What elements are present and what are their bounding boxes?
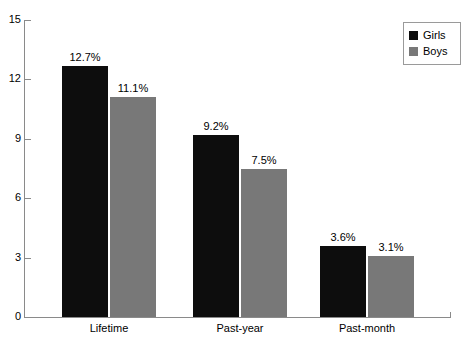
bar-boys-lifetime[interactable]: 11.1% [110,97,156,317]
x-axis-line [24,317,450,318]
y-tick-label: 15 [0,14,21,25]
legend-swatch-boys-icon [409,47,418,56]
bar-boys-past-month[interactable]: 3.1% [368,256,414,317]
y-tick-mark [25,317,31,318]
x-axis-label-past-year: Past-year [173,322,307,335]
legend-label-girls: Girls [423,29,446,41]
bar-value-label: 7.5% [251,154,276,166]
chart-legend: Girls Boys [403,22,461,65]
y-tick-label-text: 0 [1,311,21,322]
y-tick-mark [25,258,31,259]
y-tick-label-text: 12 [1,73,21,84]
legend-item-boys[interactable]: Boys [409,43,455,59]
bar-value-label: 3.6% [330,231,355,243]
y-tick-mark [25,20,31,21]
y-tick-label: 9 [0,133,21,144]
y-tick-label: 6 [0,192,21,203]
y-tick-mark [25,79,31,80]
y-tick-label: 12 [0,73,21,84]
bar-group: 12.7%11.1% [62,20,156,317]
y-tick-mark [25,139,31,140]
y-tick-label-text: 3 [1,252,21,263]
bar-boys-past-year[interactable]: 7.5% [241,169,287,318]
bar-group: 9.2%7.5% [193,20,287,317]
bar-group: 3.6%3.1% [320,20,414,317]
y-tick-label: 3 [0,252,21,263]
x-tick-mark [450,312,451,318]
y-axis-line [24,20,25,318]
bar-value-label: 3.1% [378,241,403,253]
y-tick-label-text: 6 [1,192,21,203]
x-axis-label-past-month: Past-month [300,322,434,335]
bar-girls-lifetime[interactable]: 12.7% [62,66,108,317]
legend-swatch-girls-icon [409,31,418,40]
y-tick-label-text: 15 [1,14,21,25]
bar-chart: 03691215 12.7%11.1%9.2%7.5%3.6%3.1% Life… [0,0,466,349]
y-tick-label: 0 [0,311,21,322]
bar-girls-past-month[interactable]: 3.6% [320,246,366,317]
bar-girls-past-year[interactable]: 9.2% [193,135,239,317]
y-tick-mark [25,198,31,199]
x-axis-label-lifetime: Lifetime [42,322,176,335]
bar-value-label: 9.2% [203,120,228,132]
bar-value-label: 11.1% [118,82,148,94]
legend-label-boys: Boys [423,45,447,57]
legend-item-girls[interactable]: Girls [409,27,455,43]
bar-value-label: 12.7% [69,51,100,63]
y-tick-label-text: 9 [1,133,21,144]
